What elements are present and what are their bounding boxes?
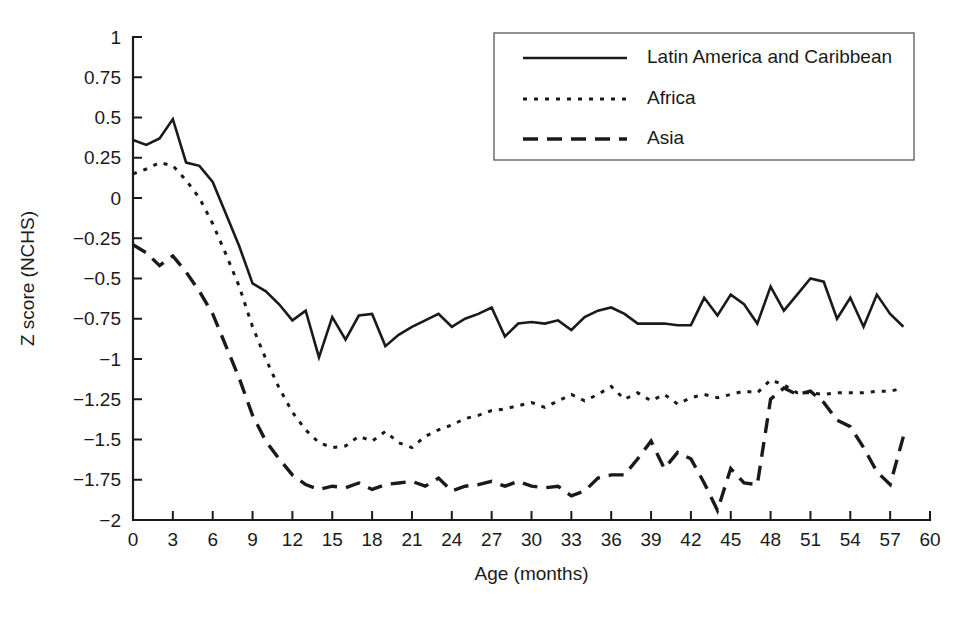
data-series <box>133 119 903 510</box>
y-tick-label: −0.5 <box>83 268 121 289</box>
x-tick-label: 57 <box>880 529 901 550</box>
y-tick-label: 0.5 <box>95 107 121 128</box>
x-tick-label: 12 <box>282 529 303 550</box>
x-tick-label: 18 <box>362 529 383 550</box>
x-tick-label: 48 <box>760 529 781 550</box>
legend-label: Africa <box>647 87 696 108</box>
line-chart: 10.750.50.250−0.25−0.5−0.75−1−1.25−1.5−1… <box>0 0 969 617</box>
x-axis-tick-labels: 03691215182124273033363942454851545760 <box>128 529 941 550</box>
x-tick-label: 60 <box>919 529 940 550</box>
x-tick-label: 21 <box>401 529 422 550</box>
x-tick-label: 33 <box>561 529 582 550</box>
y-tick-label: −0.25 <box>73 228 121 249</box>
y-axis-tick-labels: 10.750.50.250−0.25−0.5−0.75−1−1.25−1.5−1… <box>73 27 121 531</box>
series-line-dashed <box>133 245 903 511</box>
legend-label: Asia <box>647 127 684 148</box>
x-tick-label: 3 <box>168 529 179 550</box>
y-tick-label: 0.75 <box>84 67 121 88</box>
y-tick-label: −2 <box>99 510 121 531</box>
y-tick-label: −1 <box>99 349 121 370</box>
y-tick-label: −1.5 <box>83 429 121 450</box>
x-tick-label: 0 <box>128 529 139 550</box>
x-tick-label: 30 <box>521 529 542 550</box>
y-tick-label: −0.75 <box>73 308 121 329</box>
x-tick-label: 45 <box>720 529 741 550</box>
x-tick-label: 36 <box>601 529 622 550</box>
x-tick-label: 51 <box>800 529 821 550</box>
y-tick-label: −1.75 <box>73 469 121 490</box>
x-tick-label: 24 <box>441 529 463 550</box>
x-tick-label: 15 <box>322 529 343 550</box>
chart-figure: 10.750.50.250−0.25−0.5−0.75−1−1.25−1.5−1… <box>0 0 969 617</box>
x-tick-label: 54 <box>840 529 862 550</box>
y-tick-label: 1 <box>110 27 121 48</box>
y-tick-label: 0 <box>110 188 121 209</box>
y-tick-label: 0.25 <box>84 147 121 168</box>
x-tick-label: 9 <box>247 529 258 550</box>
x-axis-title: Age (months) <box>474 563 588 584</box>
x-tick-label: 39 <box>640 529 661 550</box>
y-tick-label: −1.25 <box>73 389 121 410</box>
legend-label: Latin America and Caribbean <box>647 46 892 67</box>
x-tick-label: 27 <box>481 529 502 550</box>
x-tick-label: 6 <box>207 529 218 550</box>
x-tick-label: 42 <box>680 529 701 550</box>
chart-legend: Latin America and CaribbeanAfricaAsia <box>494 33 914 160</box>
y-axis-title: Z score (NCHS) <box>17 211 38 346</box>
